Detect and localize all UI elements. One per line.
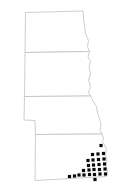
data-point-marker: [91, 153, 94, 156]
data-point-marker: [91, 158, 94, 161]
data-point-marker: [104, 172, 107, 175]
data-point-marker: [99, 144, 102, 147]
data-point-marker: [96, 152, 99, 155]
data-point-marker: [88, 173, 91, 176]
data-point-marker: [93, 173, 96, 176]
data-point-marker: [87, 164, 90, 167]
data-point-marker: [102, 157, 105, 160]
data-point-marker: [92, 168, 95, 171]
data-point-marker: [98, 172, 101, 175]
data-point-marker: [86, 159, 89, 162]
data-point-marker: [68, 175, 71, 178]
data-point-marker: [102, 152, 105, 155]
data-point-marker: [97, 163, 100, 166]
data-point-marker: [73, 174, 76, 177]
state-north-dakota: [25, 11, 90, 53]
data-point-marker: [82, 173, 85, 176]
map-canvas: [0, 0, 124, 193]
data-point-marker: [103, 162, 106, 165]
data-point-marker: [103, 167, 106, 170]
data-point-marker: [98, 168, 101, 171]
data-point-marker: [92, 163, 95, 166]
state-south-dakota: [25, 52, 91, 97]
data-point-marker: [97, 158, 100, 161]
state-nebraska: [24, 96, 102, 135]
data-point-marker: [77, 173, 80, 176]
map-figure: [0, 0, 124, 193]
data-point-marker: [93, 178, 96, 181]
data-point-marker: [87, 168, 90, 171]
state-kansas: [35, 134, 108, 181]
states-layer: [24, 11, 108, 181]
data-point-marker: [82, 169, 85, 172]
